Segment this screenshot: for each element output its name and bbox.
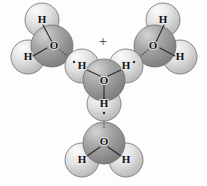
- lone-pair-dot: [133, 61, 135, 63]
- molecule-water-upper-right: H H O: [134, 3, 197, 74]
- molecule-hydronium-center: H H O H: [65, 49, 143, 121]
- atom-label-hydrogen: H: [100, 97, 109, 109]
- atom-label-oxygen: O: [100, 74, 109, 86]
- molecule-water-upper-left: H H O: [11, 3, 73, 74]
- molecule-canvas: H H O H H O O H H: [0, 0, 207, 186]
- lone-pair-dot: [73, 61, 75, 63]
- atom-label-hydrogen: H: [159, 13, 168, 25]
- atom-label-hydrogen: H: [176, 50, 185, 62]
- molecular-diagram-figure: H H O H H O O H H: [0, 0, 207, 186]
- lone-pair-dot: [103, 112, 105, 114]
- atom-label-hydrogen: H: [24, 50, 33, 62]
- molecule-water-bottom: O H H: [65, 122, 143, 177]
- atom-label-hydrogen: H: [78, 59, 87, 71]
- atom-label-hydrogen: H: [122, 153, 131, 165]
- atom-label-oxygen: O: [100, 135, 109, 147]
- atom-label-hydrogen: H: [122, 59, 131, 71]
- atom-label-hydrogen: H: [38, 13, 47, 25]
- atom-label-oxygen: O: [149, 39, 158, 51]
- atom-label-hydrogen: H: [78, 153, 87, 165]
- positive-charge-label: +: [99, 33, 107, 49]
- atom-label-oxygen: O: [50, 39, 59, 51]
